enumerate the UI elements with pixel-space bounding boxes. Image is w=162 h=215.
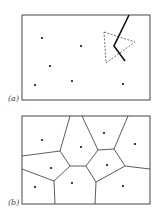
panel-a-frame	[22, 15, 150, 100]
voronoi-edge	[60, 151, 70, 166]
site-point	[80, 45, 82, 47]
voronoi-edge	[114, 149, 125, 166]
site-point	[71, 80, 73, 82]
panel-b: (b)	[8, 116, 150, 207]
voronoi-edge	[96, 166, 125, 182]
dashed-triangle	[104, 32, 135, 63]
site-point	[122, 83, 124, 85]
panel-a-label: (a)	[8, 94, 19, 103]
voronoi-edge	[98, 149, 114, 150]
site-point	[106, 164, 108, 166]
voronoi-edge	[82, 116, 98, 150]
voronoi-edge	[125, 166, 150, 169]
panel-a-points	[34, 37, 124, 86]
panel-b-frame	[22, 116, 150, 204]
voronoi-edge	[86, 166, 96, 182]
site-point	[34, 84, 36, 86]
voronoi-edge	[114, 116, 128, 149]
site-point	[103, 132, 105, 134]
voronoi-edges	[22, 116, 150, 204]
site-point	[34, 186, 36, 188]
panel-b-label: (b)	[8, 198, 19, 207]
panel-a: (a)	[8, 15, 150, 103]
voronoi-edge	[54, 166, 70, 181]
site-point	[41, 37, 43, 39]
voronoi-edge	[60, 116, 70, 151]
site-point	[50, 167, 52, 169]
voronoi-edge	[22, 151, 60, 156]
site-point	[41, 139, 43, 141]
site-point	[122, 185, 124, 187]
diagram-canvas: (a) (b)	[0, 0, 162, 215]
voronoi-edge	[86, 150, 98, 166]
voronoi-edge	[54, 181, 55, 204]
voronoi-edge	[22, 169, 54, 181]
site-point	[49, 65, 51, 67]
site-point	[134, 143, 136, 145]
site-point	[80, 146, 82, 148]
voronoi-edge	[95, 182, 96, 204]
site-point	[71, 182, 73, 184]
